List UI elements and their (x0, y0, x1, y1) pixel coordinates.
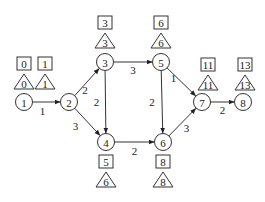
latest-time-value: 6 (158, 37, 164, 49)
latest-time-value: 11 (203, 79, 214, 91)
edge-1-2: 1 (33, 102, 61, 117)
node-6: 6 (155, 134, 172, 151)
node-label: 8 (240, 97, 246, 109)
latest-time-value: 0 (21, 78, 27, 90)
time-marker-6: 88 (153, 155, 173, 188)
edge-4-6: 2 (115, 142, 155, 157)
edge-3-4: 2 (94, 70, 106, 133)
edge-weight-label: 2 (94, 96, 100, 108)
time-marker-7: 1111 (198, 58, 218, 91)
edge-weight-label: 2 (220, 104, 226, 116)
earliest-time-value: 5 (103, 156, 109, 168)
node-label: 5 (158, 57, 164, 69)
node-label: 4 (103, 137, 109, 149)
node-3: 3 (97, 54, 114, 71)
time-marker-3: 33 (95, 16, 115, 49)
arrow-line (161, 70, 163, 133)
node-4: 4 (98, 134, 115, 151)
edge-5-6: 2 (149, 70, 163, 133)
node-label: 2 (66, 97, 72, 109)
node-label: 1 (21, 97, 27, 109)
edge-weight-label: 2 (132, 145, 138, 157)
latest-time-value: 6 (103, 176, 109, 188)
network-diagram: 1233222132 12345678 00113356668811111313 (0, 0, 265, 202)
node-8: 8 (235, 94, 252, 111)
edge-5-7: 1 (167, 68, 195, 96)
edge-3-5: 3 (114, 62, 153, 76)
edge-weight-label: 2 (149, 96, 155, 108)
latest-time-value: 1 (42, 78, 48, 90)
time-marker-8: 1313 (235, 58, 255, 91)
arrow-line (75, 108, 100, 135)
edge-2-4: 3 (73, 108, 100, 135)
edge-2-3: 2 (75, 69, 99, 96)
earliest-time-value: 0 (21, 58, 27, 70)
earliest-time-value: 13 (240, 59, 252, 71)
earliest-time-value: 11 (203, 59, 214, 71)
edge-weight-label: 1 (171, 72, 177, 84)
edge-7-8: 2 (211, 102, 235, 116)
node-label: 3 (102, 57, 108, 69)
edge-weight-label: 1 (40, 105, 46, 117)
edge-weight-label: 2 (82, 84, 88, 96)
earliest-time-value: 6 (158, 17, 164, 29)
node-7: 7 (194, 94, 211, 111)
node-label: 7 (199, 97, 205, 109)
time-marker-5: 66 (151, 16, 171, 49)
node-2: 2 (61, 94, 78, 111)
time-marker-1: 00 (14, 57, 34, 90)
earliest-time-value: 3 (102, 17, 108, 29)
edge-weight-label: 3 (73, 120, 79, 132)
arrow-line (105, 70, 106, 133)
latest-time-value: 8 (160, 176, 166, 188)
node-1: 1 (16, 94, 33, 111)
time-marker-4: 56 (96, 155, 116, 188)
edge-weight-label: 3 (184, 122, 190, 134)
node-5: 5 (153, 54, 170, 71)
node-label: 6 (160, 137, 166, 149)
edge-weight-label: 3 (130, 64, 136, 76)
time-marker-2: 11 (35, 57, 55, 90)
edge-6-7: 3 (169, 108, 196, 135)
earliest-time-value: 1 (42, 58, 48, 70)
latest-time-value: 13 (240, 79, 252, 91)
earliest-time-value: 8 (160, 156, 166, 168)
arrow-line (169, 108, 196, 135)
latest-time-value: 3 (102, 37, 108, 49)
